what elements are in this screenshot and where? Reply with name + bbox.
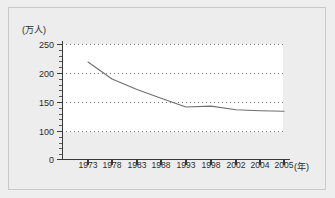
y-tick-label-100: 100 [28, 127, 54, 137]
y-tick-label-250: 250 [28, 40, 54, 50]
y-tick-label-150: 150 [28, 98, 54, 108]
y-tick-label-0: 0 [28, 155, 54, 165]
data-series-line [88, 62, 284, 111]
x-axis-unit-label: (年) [294, 160, 309, 173]
chart-figure: (万人) [0, 0, 335, 198]
y-tick-label-200: 200 [28, 69, 54, 79]
gridlines [62, 45, 283, 132]
